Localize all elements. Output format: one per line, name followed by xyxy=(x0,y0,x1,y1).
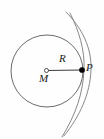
edge-point-marker xyxy=(79,67,84,72)
radius-line xyxy=(47,70,83,71)
center-label: M xyxy=(39,73,48,84)
geometry-figure: R M P xyxy=(0,0,104,139)
point-label: P xyxy=(86,62,93,73)
radius-label: R xyxy=(59,53,66,64)
